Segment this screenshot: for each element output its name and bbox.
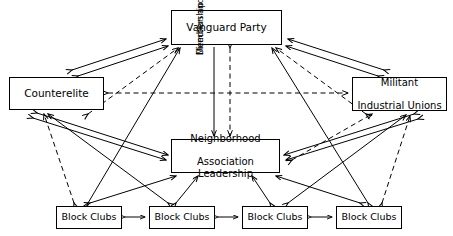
- edge-nal-block2: [176, 176, 198, 203]
- edge-counterelite-block1-dashed: [44, 114, 74, 203]
- annotation-direction-and-membership: Direction and Membership: [193, 55, 207, 135]
- annotation-line-2: Membership: [193, 0, 207, 55]
- edge-unions-nal-a: [284, 114, 414, 155]
- node-block-clubs-1[interactable]: Block Clubs: [56, 206, 122, 229]
- edge-counterelite-nal-b: [33, 118, 166, 160]
- node-label-block-clubs-3: Block Clubs: [246, 212, 305, 223]
- node-label-neighborhood-association-leadership: Neighborhood Association Leadership: [172, 133, 279, 179]
- edge-vanguard-counterelite-a: [78, 46, 168, 76]
- node-label-militant-industrial-unions: Militant Industrial Unions: [353, 77, 445, 112]
- node-block-clubs-2[interactable]: Block Clubs: [149, 206, 215, 229]
- node-neighborhood-association-leadership[interactable]: Neighborhood Association Leadership: [171, 139, 280, 173]
- edge-vanguard-block1: [88, 48, 180, 203]
- edge-vanguard-counterelite-b: [72, 39, 166, 70]
- node-label-line-2: Association Leadership: [174, 156, 277, 179]
- diagram-canvas: Vanguard Party Counterelite Militant Ind…: [0, 0, 453, 236]
- node-label-line-2: Industrial Unions: [355, 100, 443, 112]
- edge-counterelite-nal-a: [37, 113, 168, 155]
- node-label-block-clubs-4: Block Clubs: [340, 212, 399, 223]
- node-label-line-1: Militant: [355, 77, 443, 89]
- edge-group-dashed: [44, 48, 410, 203]
- node-counterelite[interactable]: Counterelite: [9, 77, 104, 110]
- node-label-block-clubs-2: Block Clubs: [153, 212, 212, 223]
- node-label-block-clubs-1: Block Clubs: [60, 212, 119, 223]
- node-block-clubs-4[interactable]: Block Clubs: [336, 206, 402, 229]
- node-label-line-1: Neighborhood: [174, 133, 277, 145]
- edge-vanguard-unions-a: [286, 46, 378, 76]
- edge-vanguard-unions-b: [288, 39, 384, 70]
- node-vanguard-party[interactable]: Vanguard Party: [171, 10, 282, 45]
- node-militant-industrial-unions[interactable]: Militant Industrial Unions: [352, 77, 447, 111]
- node-block-clubs-3[interactable]: Block Clubs: [242, 206, 308, 229]
- edge-counterelite-block2: [48, 114, 168, 203]
- edge-nal-block3: [252, 176, 270, 203]
- node-label-counterelite: Counterelite: [22, 87, 91, 99]
